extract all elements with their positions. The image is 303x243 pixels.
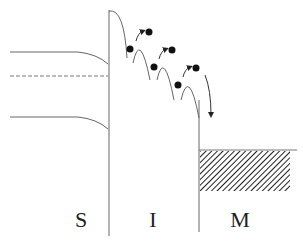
hop-arrow-2 (159, 49, 166, 59)
band-diagram: S I M (0, 0, 303, 243)
barrier-peak-2 (133, 50, 150, 80)
injection-arrow (205, 75, 211, 115)
electron-escaped-2 (169, 47, 176, 54)
label-semiconductor: S (75, 209, 87, 231)
barrier-peak-4 (181, 87, 199, 118)
conduction-band (10, 52, 108, 64)
hop-arrow-3 (183, 67, 190, 77)
label-metal: M (230, 209, 250, 231)
barrier-peak-3 (157, 68, 174, 100)
label-insulator: I (149, 209, 156, 231)
electron-escaped-1 (146, 29, 153, 36)
electron-escaped-3 (193, 65, 200, 72)
electron-trapped-3 (175, 82, 182, 89)
electron-trapped-2 (151, 64, 158, 71)
barrier-peak-1 (109, 11, 127, 58)
metal-filled-states (200, 151, 290, 191)
hop-arrow-1 (136, 31, 143, 41)
electron-trapped-1 (127, 46, 134, 53)
valence-band (10, 117, 108, 129)
